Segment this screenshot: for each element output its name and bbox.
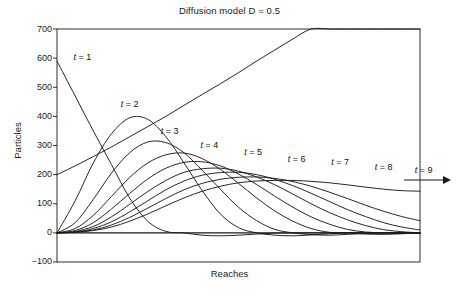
label-value: = 6 [290,154,305,164]
curve-label-t5: t = 5 [244,147,262,157]
chart-figure: Diffusion model D = 0.5 Particles Reache… [0,0,459,290]
label-value: = 4 [203,140,218,150]
label-value: = 9 [417,165,432,175]
curve-label-t9: t = 9 [415,165,433,175]
label-value: = 2 [123,99,138,109]
curve-t7 [57,172,420,233]
label-value: = 7 [334,157,349,167]
label-value: = 1 [76,52,91,62]
flow-arrow [404,176,451,184]
curve-t2 [57,116,420,235]
curve-t3 [57,141,420,235]
curve-label-t2: t = 2 [121,99,139,109]
plot-area [0,0,459,290]
curve-label-t4: t = 4 [201,140,219,150]
curve-label-t1: t = 1 [74,52,92,62]
arrow-head-icon [443,176,451,184]
curve-rising-line [57,28,420,174]
y-axis-ticks [53,29,57,262]
label-value: = 3 [163,126,178,136]
curve-t6 [57,168,420,233]
curve-t8 [57,177,420,233]
label-value: = 8 [377,162,392,172]
curve-label-t8: t = 8 [375,162,393,172]
curve-label-t3: t = 3 [161,126,179,136]
curve-label-t6: t = 6 [288,154,306,164]
label-value: = 5 [247,147,262,157]
curve-label-t7: t = 7 [331,157,349,167]
data-curves [57,28,420,236]
